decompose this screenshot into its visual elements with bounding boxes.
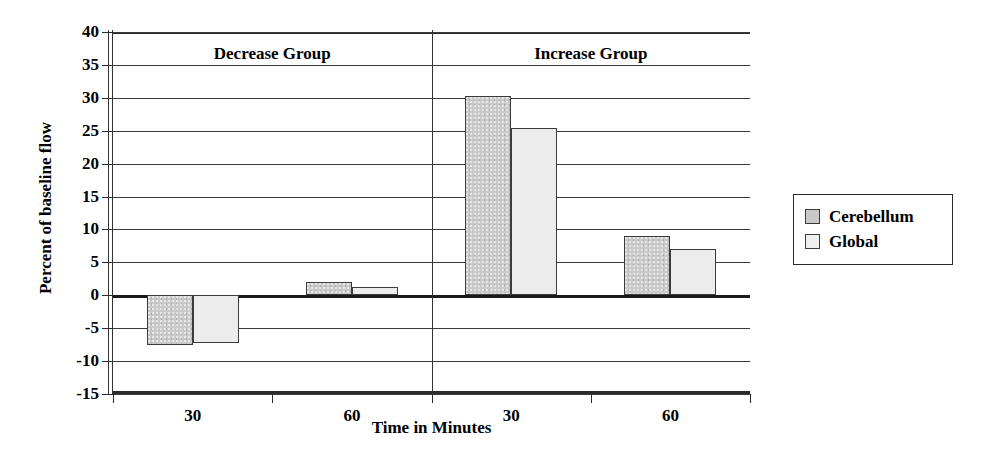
- x-tick-mark-3: [591, 394, 592, 403]
- y-tick-label-25: 25: [47, 122, 99, 139]
- x-tick-mark-4: [750, 394, 751, 403]
- bar-cerebellum-decrease-60: [306, 282, 352, 295]
- y-tick-mark-15: [102, 197, 113, 198]
- y-tick-mark-0: [102, 295, 113, 296]
- cerebellum-swatch-icon: [805, 209, 820, 224]
- y-tick-mark-40: [102, 32, 113, 33]
- y-tick-label-10: 10: [47, 220, 99, 237]
- legend-label-global: Global: [829, 233, 878, 250]
- x-axis-title: Time in Minutes: [113, 418, 750, 438]
- y-tick-mark-10: [102, 229, 113, 230]
- y-tick-mark--10: [102, 361, 113, 362]
- bar-cerebellum-increase-30: [465, 96, 511, 295]
- plot-area: Decrease Group Increase Group 30603060: [113, 32, 750, 394]
- y-tick-mark--15: [102, 394, 113, 395]
- y-tick-label-30: 30: [47, 89, 99, 106]
- y-tick-label-35: 35: [47, 56, 99, 73]
- y-axis-spine: [108, 30, 113, 395]
- y-tick-mark-25: [102, 131, 113, 132]
- y-tick-label--15: -15: [47, 385, 99, 402]
- y-tick-label--5: -5: [47, 319, 99, 336]
- y-tick-label-0: 0: [47, 286, 99, 303]
- group-divider: [432, 30, 433, 394]
- bar-cerebellum-increase-60: [624, 236, 670, 295]
- y-tick-label-40: 40: [47, 23, 99, 40]
- x-tick-mark-0: [113, 394, 114, 403]
- y-tick-label-15: 15: [47, 188, 99, 205]
- y-tick-mark-5: [102, 262, 113, 263]
- y-tick-label--10: -10: [47, 352, 99, 369]
- global-swatch-icon: [805, 234, 820, 249]
- group-title-increase: Increase Group: [432, 44, 751, 64]
- bar-global-increase-30: [511, 128, 557, 295]
- bar-global-decrease-30: [193, 295, 239, 343]
- y-tick-mark-30: [102, 98, 113, 99]
- x-tick-mark-1: [272, 394, 273, 403]
- legend-item-cerebellum: Cerebellum: [805, 204, 942, 229]
- legend-item-global: Global: [805, 229, 942, 254]
- bar-chart-figure: Percent of baseline flow Decrease Group …: [0, 0, 985, 456]
- y-tick-mark-35: [102, 65, 113, 66]
- legend-label-cerebellum: Cerebellum: [829, 208, 914, 225]
- bar-global-increase-60: [670, 249, 716, 295]
- chart-legend: Cerebellum Global: [793, 194, 953, 265]
- group-title-decrease: Decrease Group: [113, 44, 432, 64]
- y-tick-label-20: 20: [47, 155, 99, 172]
- bar-global-decrease-60: [352, 287, 398, 296]
- y-tick-label-5: 5: [47, 253, 99, 270]
- y-tick-mark--5: [102, 328, 113, 329]
- bar-cerebellum-decrease-30: [147, 295, 193, 345]
- x-tick-mark-2: [432, 394, 433, 403]
- y-tick-mark-20: [102, 164, 113, 165]
